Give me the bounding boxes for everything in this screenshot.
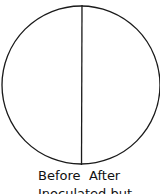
label-after: After: [89, 168, 120, 183]
caption-text: Inoculated but: [38, 186, 132, 194]
split-circle-diagram: [0, 0, 160, 194]
divider-line: [82, 5, 83, 165]
label-before: Before: [38, 168, 81, 183]
